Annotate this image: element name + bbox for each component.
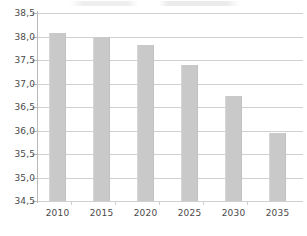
y-axis-label-2: 37,5 xyxy=(0,56,35,65)
gridline xyxy=(38,107,303,108)
gridline xyxy=(38,37,303,38)
x-axis-label-2025: 2025 xyxy=(168,208,212,218)
y-axis-label-0: 38,5 xyxy=(0,9,35,18)
x-axis-label-2020: 2020 xyxy=(124,208,168,218)
x-axis-label-2010: 2010 xyxy=(36,208,80,218)
gridline xyxy=(38,201,303,202)
gridline xyxy=(38,178,303,179)
x-axis-label-2015: 2015 xyxy=(80,208,124,218)
x-tick-mark xyxy=(159,201,160,205)
y-axis-label-5: 36,0 xyxy=(0,127,35,136)
x-tick-mark xyxy=(203,201,204,205)
gridline xyxy=(38,60,303,61)
plot-area xyxy=(38,13,303,201)
x-tick-mark xyxy=(115,201,116,205)
y-axis-label-4: 36,5 xyxy=(0,103,35,112)
y-axis-label-3: 37,0 xyxy=(0,80,35,89)
gridline xyxy=(38,154,303,155)
y-axis-label-1: 38,0 xyxy=(0,33,35,42)
x-tick-mark xyxy=(71,201,72,205)
gridline xyxy=(38,13,303,14)
x-tick-mark xyxy=(247,201,248,205)
y-axis-label-8: 34,5 xyxy=(0,197,35,206)
bar-2015 xyxy=(93,37,110,202)
bar-2025 xyxy=(181,65,198,201)
y-axis-label-7: 35,0 xyxy=(0,174,35,183)
chart-title-remnant xyxy=(70,1,240,6)
bar-2030 xyxy=(225,96,242,201)
bar-2010 xyxy=(49,33,66,201)
bar-chart: 38,5 38,0 37,5 37,0 36,5 36,0 35,5 35,0 … xyxy=(0,0,307,236)
x-axis-label-2035: 2035 xyxy=(256,208,300,218)
x-axis-label-2030: 2030 xyxy=(212,208,256,218)
bar-2020 xyxy=(137,45,154,201)
bar-2035 xyxy=(269,133,286,201)
gridline xyxy=(38,84,303,85)
gridline xyxy=(38,131,303,132)
y-axis-label-6: 35,5 xyxy=(0,150,35,159)
